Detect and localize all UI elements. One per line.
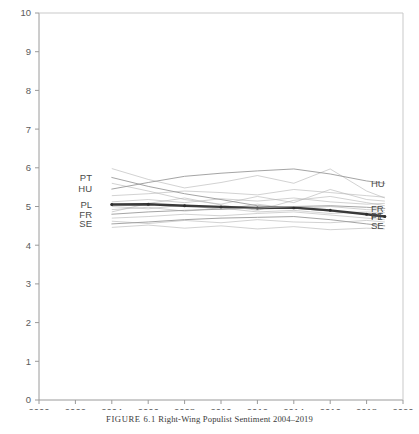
y-tick-label: 8 <box>26 85 31 96</box>
y-tick-label: 4 <box>26 240 31 251</box>
x-tick-label: 2020 <box>392 406 413 410</box>
series-label-left-se: SE <box>79 218 92 229</box>
figure-caption-number: FIGURE 6.1 <box>106 414 156 424</box>
series-label-right-hu: HU <box>371 178 385 189</box>
x-tick-label: 2002 <box>65 406 86 410</box>
series-marker-pl <box>220 205 223 208</box>
y-tick-label: 9 <box>26 46 31 57</box>
series-label-left-hu: HU <box>78 183 92 194</box>
line-chart: 0123456789102000200220042006200820102012… <box>0 0 419 410</box>
y-tick-label: 10 <box>20 7 31 18</box>
series-label-right-se: SE <box>371 220 384 231</box>
y-tick-label: 1 <box>26 356 31 367</box>
series-label-left-pt: PT <box>80 172 92 183</box>
y-tick-label: 7 <box>26 124 31 135</box>
y-tick-label: 2 <box>26 317 31 328</box>
y-tick-label: 3 <box>26 278 31 289</box>
x-tick-label: 2010 <box>210 406 231 410</box>
series-line-hu <box>112 169 385 189</box>
y-tick-label: 5 <box>26 201 31 212</box>
figure-container: 0123456789102000200220042006200820102012… <box>0 0 419 434</box>
series-marker-pl <box>329 209 332 212</box>
series-label-right-fr: FR <box>371 203 384 214</box>
y-tick-label: 6 <box>26 162 31 173</box>
x-tick-label: 2012 <box>247 406 268 410</box>
series-marker-pl <box>183 204 186 207</box>
series-line-se <box>112 217 385 226</box>
figure-caption-text: Right-Wing Populist Sentiment 2004–2019 <box>158 414 313 424</box>
x-tick-label: 2004 <box>101 406 122 410</box>
x-tick-label: 2014 <box>283 406 304 410</box>
series-marker-pl <box>147 203 150 206</box>
series-marker-pl <box>110 203 113 206</box>
series-line-pt <box>112 177 385 215</box>
figure-caption: FIGURE 6.1 Right-Wing Populist Sentiment… <box>0 414 419 424</box>
x-tick-label: 2000 <box>28 406 49 410</box>
y-tick-label: 0 <box>26 394 31 405</box>
background-line <box>112 225 385 230</box>
x-tick-label: 2016 <box>320 406 341 410</box>
chart-plot-area: 0123456789102000200220042006200820102012… <box>0 0 419 410</box>
x-tick-label: 2008 <box>174 406 195 410</box>
x-tick-label: 2018 <box>356 406 377 410</box>
series-marker-pl <box>365 213 368 216</box>
x-tick-label: 2006 <box>138 406 159 410</box>
series-marker-pl <box>383 215 386 218</box>
